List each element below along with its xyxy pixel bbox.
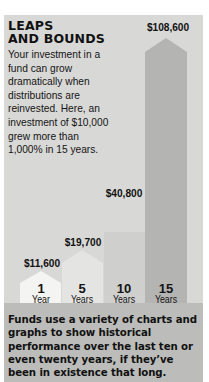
intro-text: Your investment in a fund can grow drama… bbox=[8, 47, 112, 156]
title-line-2: AND BOUNDS bbox=[8, 32, 118, 45]
chart-title: LEAPS AND BOUNDS bbox=[8, 19, 118, 45]
axis-label-15-years: 15 Years bbox=[146, 283, 186, 305]
axis-label-5-years: 5 Years bbox=[62, 283, 102, 305]
value-label-5-years: $19,700 bbox=[63, 236, 103, 248]
axis-label-10-years: 10 Years bbox=[104, 283, 144, 305]
value-label-1-year: $11,600 bbox=[23, 257, 62, 269]
value-label-10-years: $40,800 bbox=[104, 187, 144, 199]
value-label-15-years: $108,600 bbox=[143, 21, 192, 33]
footer-caption: Funds use a variety of charts and graphs… bbox=[8, 313, 204, 379]
bar-15-years bbox=[145, 38, 187, 303]
axis-label-1-year: 1 Year bbox=[21, 283, 61, 305]
